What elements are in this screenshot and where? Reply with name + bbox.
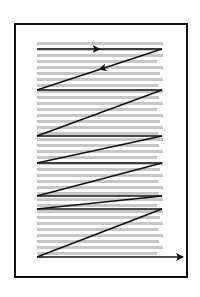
path-segment bbox=[37, 136, 162, 163]
path-segment bbox=[37, 163, 162, 196]
path-segment bbox=[37, 90, 162, 136]
path-segment bbox=[37, 196, 162, 209]
reading-path bbox=[37, 49, 183, 257]
reading-path-diagram bbox=[0, 0, 200, 297]
path-segment bbox=[37, 209, 162, 257]
